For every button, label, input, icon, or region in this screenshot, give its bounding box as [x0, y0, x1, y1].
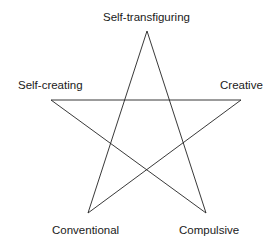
- vertex-label-conventional: Conventional: [52, 225, 119, 237]
- vertex-label-creative: Creative: [220, 80, 263, 92]
- edge-left-to-bottom-right: [51, 100, 206, 213]
- pentagram-diagram: [0, 0, 276, 249]
- edge-top-to-bottom-right: [147, 31, 206, 213]
- pentagram-edges: [51, 31, 241, 213]
- vertex-label-compulsive: Compulsive: [179, 225, 239, 237]
- edge-top-to-bottom-left: [88, 31, 147, 213]
- vertex-label-self-transfiguring: Self-transfiguring: [103, 12, 190, 24]
- vertex-label-self-creating: Self-creating: [18, 80, 83, 92]
- edge-right-to-bottom-left: [88, 100, 241, 213]
